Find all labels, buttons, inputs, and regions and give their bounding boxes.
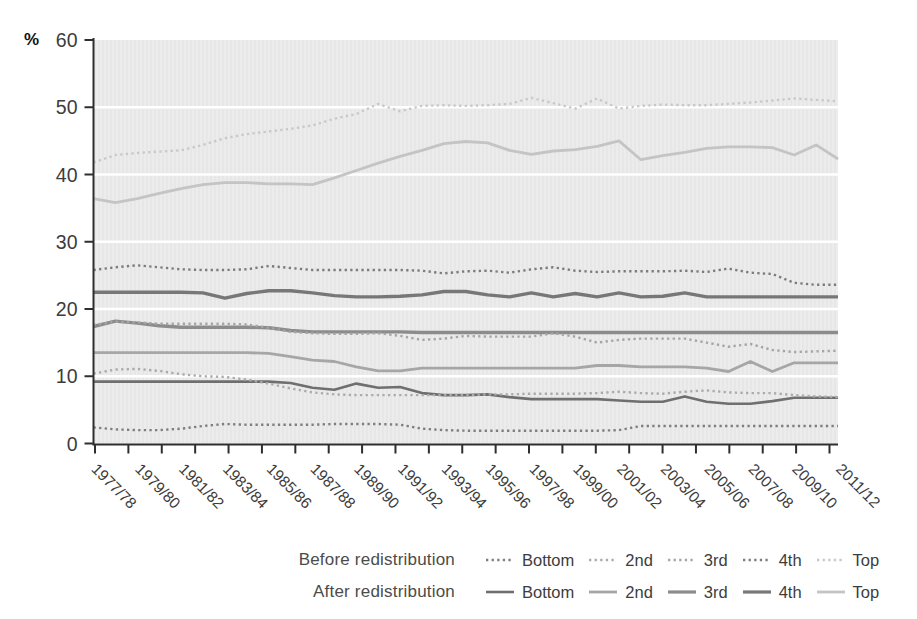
legend-item-before-4th: 4th (742, 551, 802, 570)
legend-group-label: After redistribution (0, 582, 455, 602)
legend-item-after-top: Top (816, 583, 880, 602)
x-axis-label-2009-10: 2009/10 (789, 460, 841, 512)
income-redistribution-chart: % 01020304050601977/781979/801981/821983… (0, 0, 917, 619)
legend-item-after-bottom: Bottom (485, 583, 574, 602)
legend-swatch-solid-icon (485, 588, 515, 596)
legend-item-label: 3rd (704, 551, 728, 570)
y-axis-label-50: 50 (56, 96, 78, 118)
legend-items: Bottom2nd3rd4thTop (485, 583, 893, 602)
legend-swatch-dotted-icon (485, 556, 515, 564)
legend-item-label: 2nd (625, 583, 653, 602)
y-axis-label-10: 10 (56, 365, 78, 387)
legend-item-label: 2nd (625, 551, 653, 570)
legend-item-label: 4th (779, 583, 802, 602)
legend-item-label: 4th (779, 551, 802, 570)
x-axis-label-2005-06: 2005/06 (701, 460, 753, 512)
legend-group-label: Before redistribution (0, 550, 455, 570)
chart-plot: 01020304050601977/781979/801981/821983/8… (0, 0, 917, 544)
x-axis-label-1991-92: 1991/92 (395, 460, 447, 512)
legend-item-before-3rd: 3rd (667, 551, 728, 570)
y-axis-label-20: 20 (56, 298, 78, 320)
x-axis-label-1981-82: 1981/82 (176, 460, 228, 512)
x-axis-label-1987-88: 1987/88 (307, 460, 359, 512)
legend-swatch-solid-icon (816, 588, 846, 596)
legend-swatch-dotted-icon (816, 556, 846, 564)
x-axis-label-1995-96: 1995/96 (483, 460, 535, 512)
x-axis-label-2011-12: 2011/12 (833, 460, 884, 511)
y-axis-label-60: 60 (56, 29, 78, 51)
legend-item-after-4th: 4th (742, 583, 802, 602)
legend-item-after-3rd: 3rd (667, 583, 728, 602)
x-axis-label-1997-98: 1997/98 (526, 460, 578, 512)
x-axis-label-1979-80: 1979/80 (132, 460, 184, 512)
legend-swatch-solid-icon (742, 588, 772, 596)
legend-item-after-2nd: 2nd (588, 583, 653, 602)
legend-items: Bottom2nd3rd4thTop (485, 551, 893, 570)
legend-item-label: Bottom (522, 583, 574, 602)
x-axis-label-1983-84: 1983/84 (220, 460, 272, 512)
x-axis-label-1999-00: 1999/00 (570, 460, 622, 512)
y-axis-label-30: 30 (56, 231, 78, 253)
legend-swatch-solid-icon (667, 588, 697, 596)
legend-item-label: Top (853, 551, 880, 570)
x-axis-label-1993-94: 1993/94 (439, 460, 491, 512)
legend-item-before-top: Top (816, 551, 880, 570)
legend-item-label: Top (853, 583, 880, 602)
chart-legend: Before redistributionBottom2nd3rd4thTopA… (0, 544, 917, 608)
x-axis-label-1985-86: 1985/86 (264, 460, 316, 512)
x-axis-label-1989-90: 1989/90 (351, 460, 403, 512)
legend-item-label: Bottom (522, 551, 574, 570)
x-axis-label-2003-04: 2003/04 (658, 460, 710, 512)
x-axis-label-2007-08: 2007/08 (745, 460, 797, 512)
y-axis-label-0: 0 (67, 433, 78, 455)
legend-swatch-dotted-icon (588, 556, 618, 564)
x-axis-label-1977-78: 1977/78 (88, 460, 140, 512)
legend-swatch-solid-icon (588, 588, 618, 596)
legend-swatch-dotted-icon (742, 556, 772, 564)
legend-swatch-dotted-icon (667, 556, 697, 564)
legend-row-after: After redistributionBottom2nd3rd4thTop (0, 576, 917, 608)
legend-item-label: 3rd (704, 583, 728, 602)
legend-row-before: Before redistributionBottom2nd3rd4thTop (0, 544, 917, 576)
legend-item-before-2nd: 2nd (588, 551, 653, 570)
x-axis-label-2001-02: 2001/02 (614, 460, 666, 512)
legend-item-before-bottom: Bottom (485, 551, 574, 570)
y-axis-label-40: 40 (56, 164, 78, 186)
